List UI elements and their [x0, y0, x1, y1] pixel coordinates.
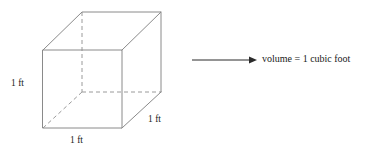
hidden-edge-bottom-left-receding — [43, 92, 82, 128]
cube-depth-label: 1 ft — [148, 115, 161, 125]
cube-height-label: 1 ft — [11, 79, 24, 89]
cube-visible-edges — [43, 12, 161, 128]
volume-caption: volume = 1 cubic foot — [262, 54, 350, 64]
cube-width-label: 1 ft — [70, 136, 83, 146]
cube-top-face-edges — [43, 12, 161, 50]
cube-diagram-svg — [0, 0, 384, 159]
arrow-head-icon — [249, 57, 257, 64]
arrow-group — [192, 57, 257, 64]
figure-root: 1 ft 1 ft 1 ft volume = 1 cubic foot — [0, 0, 384, 159]
